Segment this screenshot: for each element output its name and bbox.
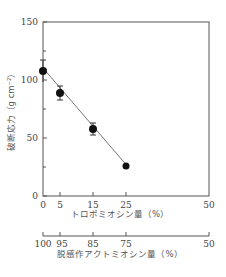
point-25 [123,163,130,170]
y-axis-label: 破断応力（g cm⁻²） [6,69,16,152]
x2-tick-95: 95 [56,239,68,249]
plot-frame [43,22,209,196]
x2-tick-75: 75 [120,239,132,249]
x-axis-secondary [43,232,209,236]
data-points [39,67,130,170]
y-tick-0: 0 [32,191,38,201]
x2-axis-label: 脱感作アクトミオシン量（%） [57,249,182,259]
x2-tick-100: 100 [34,239,51,249]
x-tick-5: 5 [57,200,63,210]
chart: 0 50 100 150 破断応力（g cm⁻²） 0 5 15 25 50 ト… [0,0,226,277]
fit-line [43,68,129,168]
x-tick-50: 50 [203,200,215,210]
x2-tick-85: 85 [87,239,99,249]
x-axis [60,192,126,196]
y-tick-100: 100 [21,75,38,85]
x-axis-label: トロポミオシン量（%） [71,209,169,219]
point-0 [39,67,47,75]
point-5 [56,89,64,97]
y-axis [43,22,47,196]
y-tick-150: 150 [21,17,38,27]
x-tick-0: 0 [40,200,46,210]
x2-tick-50: 50 [203,239,215,249]
point-15 [89,125,97,133]
y-tick-50: 50 [27,133,39,143]
